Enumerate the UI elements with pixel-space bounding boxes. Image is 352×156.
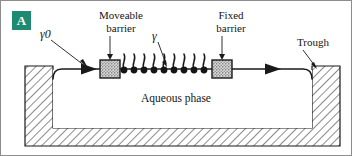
leader-arrowhead-moveable <box>107 54 113 60</box>
label-moveable-barrier: Moveable barrier <box>84 9 158 34</box>
diagram-canvas <box>0 0 352 156</box>
label-aqueous-phase: Aqueous phase <box>118 92 234 105</box>
surfactant-molecule <box>171 54 178 73</box>
fixed-barrier-block <box>212 60 232 78</box>
leader-line-gamma0 <box>51 40 85 66</box>
label-trough: Trough <box>297 36 345 49</box>
fixed-barrier <box>212 60 232 78</box>
surfactant-molecule <box>131 54 138 73</box>
surfactant-molecule <box>151 54 158 73</box>
label-fixed-barrier: Fixed barrier <box>204 9 258 34</box>
label-surface-tension-film: γ <box>152 30 166 43</box>
panel-label-badge: A <box>12 11 31 30</box>
figure-panel-a: A Moveable barrier Fixed barrier Trough … <box>0 0 352 156</box>
surfactant-molecule <box>141 54 148 73</box>
moveable-barrier-block[interactable] <box>100 60 120 78</box>
moveable-barrier[interactable] <box>100 60 120 78</box>
label-surface-tension-clean: γ0 <box>40 28 58 41</box>
leader-arrowhead-fixed <box>219 54 225 60</box>
surfactant-molecule <box>181 54 188 73</box>
surfactant-molecule <box>191 54 198 73</box>
surfactant-molecule <box>121 54 128 73</box>
surfactant-molecule <box>201 54 208 73</box>
